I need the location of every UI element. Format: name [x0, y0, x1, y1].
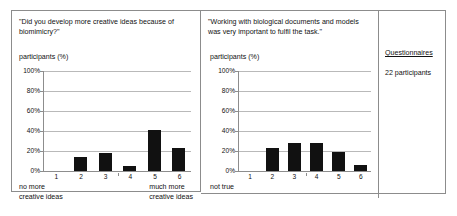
bar-slot: [283, 71, 305, 171]
scale-low-label-2: not true: [210, 183, 234, 193]
bar-slot: [239, 71, 261, 171]
bar-4: [123, 166, 136, 171]
axis-end-tick: [378, 193, 379, 198]
x-axis-line: [238, 171, 371, 172]
y-axis-tick-label: 20%: [222, 148, 235, 155]
bar-series: [44, 71, 191, 171]
bar-slot: [93, 71, 118, 171]
x-axis-tick-label: 6: [350, 173, 372, 181]
y-axis-tick-label: 80%: [222, 88, 235, 95]
x-axis-tick-label: 5: [328, 173, 350, 181]
x-axis-tick-label: 3: [93, 173, 118, 181]
bar-slot: [305, 71, 327, 171]
plot-area-1: 0%20%40%60%80%100%: [43, 71, 191, 172]
y-axis-tick-label: 0%: [225, 168, 235, 175]
y-axis-tick-label: 60%: [27, 108, 40, 115]
x-axis-tick-mark: [306, 173, 307, 176]
bar-chart-2: 0%20%40%60%80%100%: [238, 71, 371, 172]
bar-6: [354, 165, 367, 171]
y-axis-tick-label: 40%: [222, 128, 235, 135]
bar-2: [266, 148, 279, 171]
bar-3: [99, 153, 112, 171]
x-axis-tick-label: 3: [283, 173, 305, 181]
x-axis-tick-label: 4: [306, 173, 328, 181]
x-axis-tick-label: 2: [69, 173, 94, 181]
bar-4: [310, 143, 323, 171]
x-axis-tick-label: 4: [118, 173, 143, 181]
x-axis-tick-label: 5: [143, 173, 168, 181]
question-text-2: "Working with biological documents and m…: [208, 17, 373, 37]
y-axis-title-1: participants (%): [19, 53, 68, 61]
question-panel-2: "Working with biological documents and m…: [201, 10, 379, 194]
bar-slot: [167, 71, 192, 171]
bar-slot: [118, 71, 143, 171]
legend-title: Questionnaires: [385, 49, 433, 57]
x-axis-ticks-2: 123456: [239, 173, 372, 181]
bar-2: [74, 157, 87, 171]
bar-5: [332, 152, 345, 171]
bar-3: [288, 143, 301, 171]
question-text-1: "Did you develop more creative ideas bec…: [19, 17, 195, 37]
y-axis-tick-label: 60%: [222, 108, 235, 115]
bar-slot: [142, 71, 167, 171]
y-axis-title-2: participants (%): [210, 53, 259, 61]
bar-chart-1: 0%20%40%60%80%100%: [43, 71, 191, 172]
legend-panel: Questionnaires 22 participants: [379, 10, 446, 194]
question-panel-1: "Did you develop more creative ideas bec…: [11, 10, 201, 192]
y-axis-tick-label: 20%: [27, 148, 40, 155]
bar-slot: [349, 71, 371, 171]
bar-slot: [44, 71, 69, 171]
x-axis-tick-label: 1: [44, 173, 69, 181]
x-axis-tick-label: 1: [239, 173, 261, 181]
scale-high-label-1: much more creative ideas: [149, 183, 193, 202]
x-axis-tick-label: 2: [261, 173, 283, 181]
questionnaire-results-figure: "Did you develop more creative ideas bec…: [11, 10, 446, 194]
bar-series: [239, 71, 371, 171]
y-axis-tick-label: 0%: [30, 168, 40, 175]
y-axis-tick-label: 100%: [218, 68, 235, 75]
x-axis-tick-label: 6: [167, 173, 192, 181]
bar-6: [172, 148, 185, 171]
y-axis-tick-label: 40%: [27, 128, 40, 135]
x-axis-ticks-1: 123456: [44, 173, 192, 181]
x-axis-line: [43, 171, 191, 172]
y-axis-tick-label: 80%: [27, 88, 40, 95]
plot-area-2: 0%20%40%60%80%100%: [238, 71, 371, 172]
bar-5: [148, 130, 161, 171]
bar-slot: [261, 71, 283, 171]
bar-slot: [327, 71, 349, 171]
x-axis-tick-mark: [118, 173, 119, 176]
participant-count: 22 participants: [385, 69, 431, 77]
bar-slot: [69, 71, 94, 171]
y-axis-tick-label: 100%: [23, 68, 40, 75]
scale-low-label-1: no more creative ideas: [19, 183, 63, 202]
